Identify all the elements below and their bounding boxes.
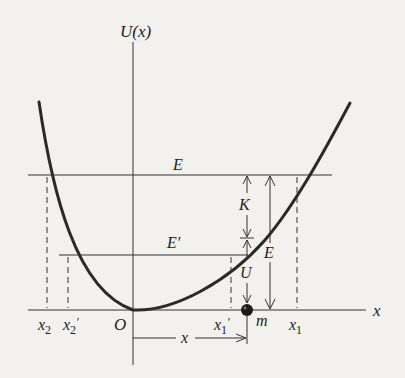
displacement-arrow xyxy=(133,316,247,344)
particle-mass xyxy=(241,304,253,316)
mass-label: m xyxy=(256,312,268,329)
total-energy-arrow xyxy=(265,176,275,309)
potential-curve xyxy=(39,102,350,310)
label-x1-prime: x1′ xyxy=(213,315,230,337)
svg-text:x2′: x2′ xyxy=(62,315,79,337)
particle-highlight xyxy=(244,307,247,310)
energy-level-E-label: E xyxy=(172,156,183,173)
potential-energy-label: U xyxy=(240,264,253,281)
total-energy-label: E xyxy=(263,244,274,261)
energy-level-E-prime-label: E′ xyxy=(166,234,181,251)
label-x2-prime: x2′ xyxy=(62,315,79,337)
svg-text:x1: x1 xyxy=(288,316,302,337)
origin-label: O xyxy=(114,315,126,334)
svg-text:x1′: x1′ xyxy=(213,315,230,337)
y-axis-label: U(x) xyxy=(120,22,151,41)
x-axis-label: x xyxy=(372,301,381,320)
label-x1: x1 xyxy=(288,316,302,337)
displacement-label: x xyxy=(180,329,188,346)
potential-energy-diagram: U(x) x O E E′ x2 x2′ x1′ x1 K U xyxy=(0,0,405,378)
kinetic-energy-label: K xyxy=(238,196,251,213)
label-x2: x2 xyxy=(37,316,51,337)
svg-text:x2: x2 xyxy=(37,316,51,337)
